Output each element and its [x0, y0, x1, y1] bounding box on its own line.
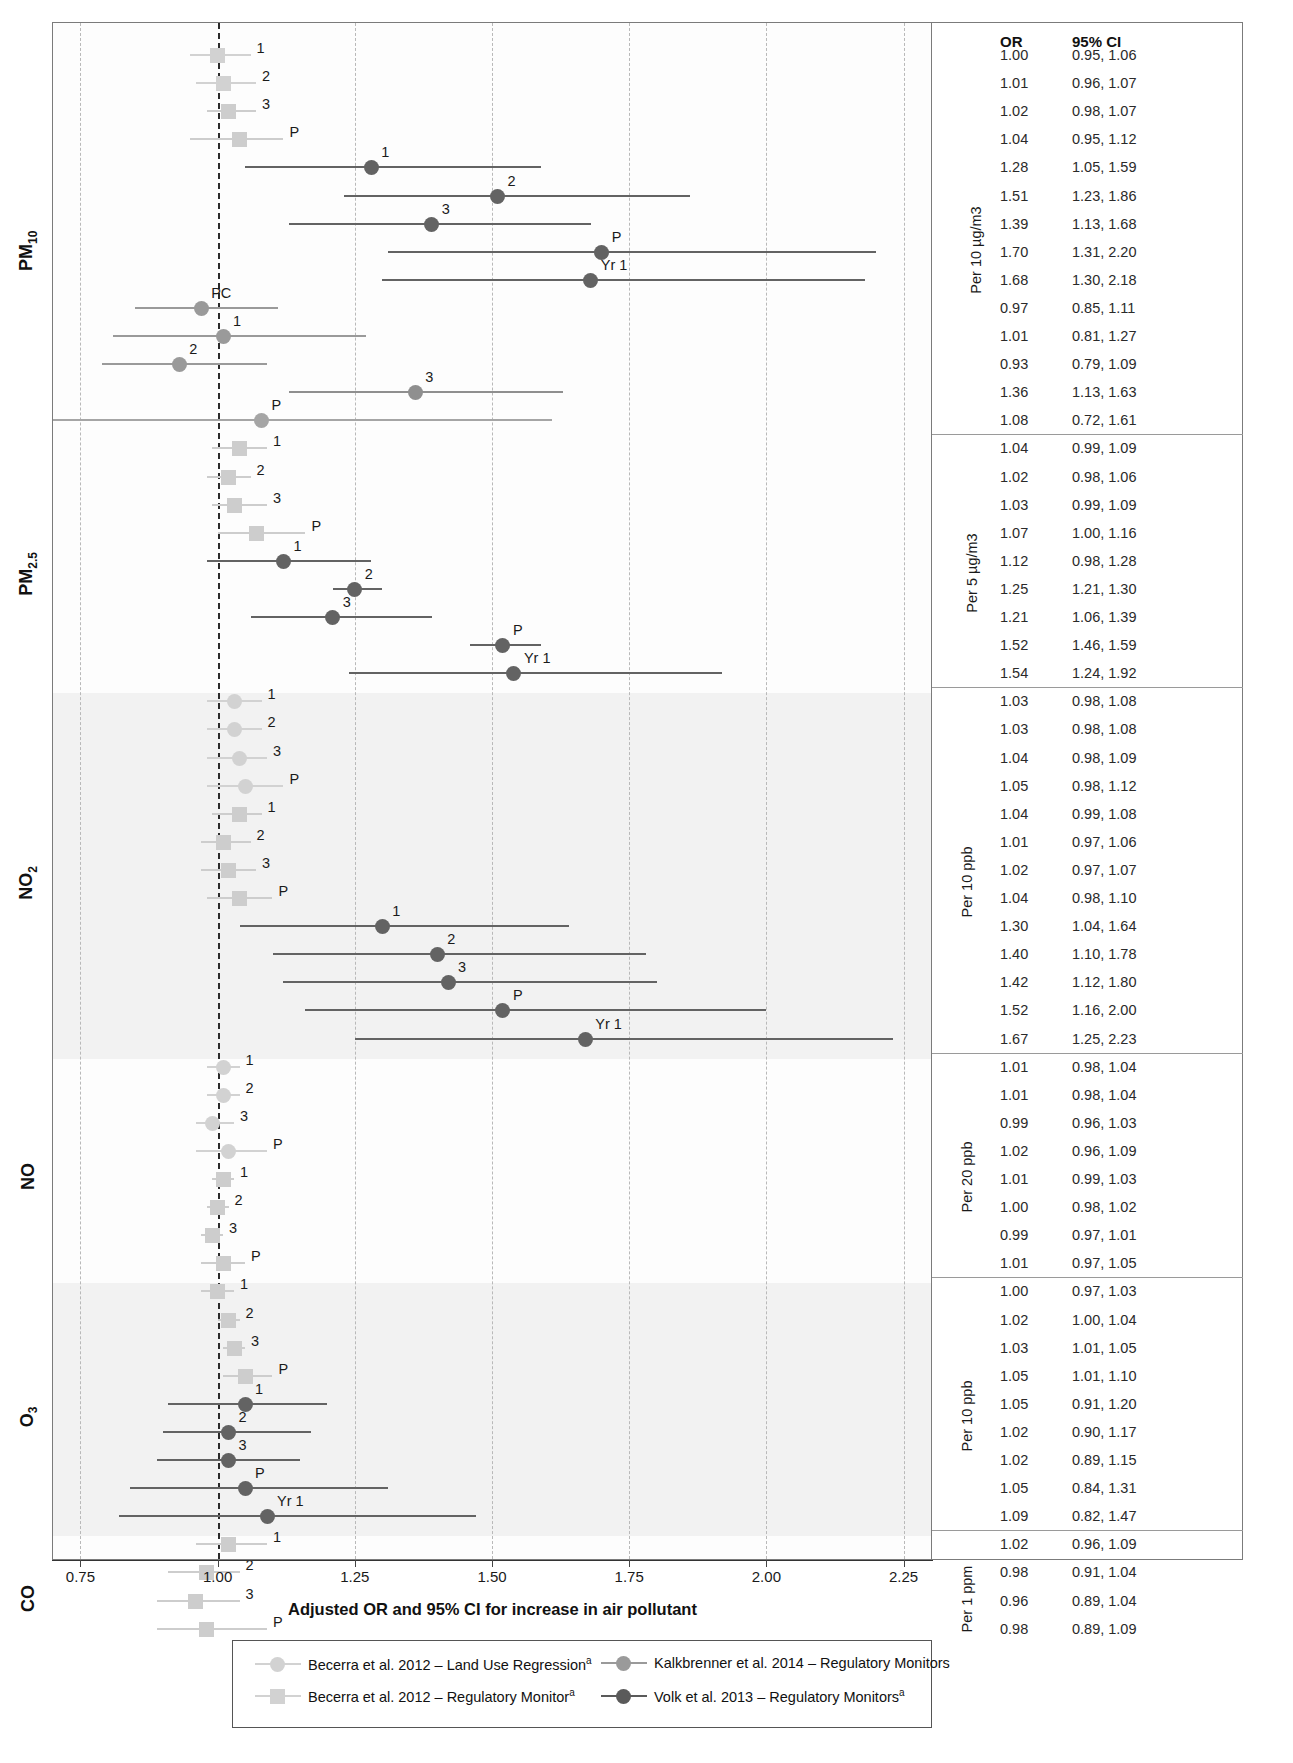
table-cell-ci: 0.97, 1.01 [1072, 1227, 1202, 1243]
table-cell-or: 0.93 [1000, 356, 1060, 372]
table-cell-or: 1.01 [1000, 1059, 1060, 1075]
table-cell-or: 1.03 [1000, 1340, 1060, 1356]
axis-tick-label: 2.25 [889, 1568, 918, 1585]
forest-row: P [53, 1137, 931, 1165]
legend-label: Becerra et al. 2012 – Land Use Regressio… [308, 1655, 592, 1673]
forest-row: 3 [53, 1334, 931, 1362]
legend-label: Kalkbrenner et al. 2014 – Regulatory Mon… [654, 1655, 950, 1671]
or-ci-table: OR 95% CI 1.000.95, 1.061.010.96, 1.071.… [932, 22, 1243, 1560]
row-label: 2 [257, 462, 265, 478]
point-estimate-marker [490, 189, 505, 204]
row-label: 1 [268, 686, 276, 702]
table-cell-ci: 0.96, 1.07 [1072, 75, 1202, 91]
confidence-interval-bar [163, 1431, 311, 1433]
row-label: 3 [262, 855, 270, 871]
table-cell-or: 0.96 [1000, 1593, 1060, 1609]
table-cell-or: 1.30 [1000, 918, 1060, 934]
point-estimate-marker [205, 1116, 220, 1131]
forest-row: 2 [53, 828, 931, 856]
table-cell-or: 1.21 [1000, 609, 1060, 625]
point-estimate-marker [205, 1228, 220, 1243]
table-cell-or: 1.04 [1000, 890, 1060, 906]
row-label: 1 [240, 1276, 248, 1292]
table-cell-or: 1.03 [1000, 721, 1060, 737]
axis-tick [766, 1560, 767, 1567]
forest-row: P [53, 1474, 931, 1502]
legend-key-icon [601, 1688, 647, 1704]
legend-key-icon [255, 1656, 301, 1672]
forest-row: 2 [53, 1193, 931, 1221]
x-axis-title: Adjusted OR and 95% CI for increase in a… [52, 1600, 933, 1619]
table-cell-or: 1.02 [1000, 1536, 1060, 1552]
table-cell-or: 1.70 [1000, 244, 1060, 260]
forest-row: P [53, 1362, 931, 1390]
table-cell-or: 1.02 [1000, 1312, 1060, 1328]
unit-label: Per 1 ppm [932, 1591, 1002, 1607]
point-estimate-marker [232, 891, 247, 906]
row-label: 1 [255, 1381, 263, 1397]
confidence-interval-bar [283, 981, 656, 983]
table-cell-or: 1.04 [1000, 806, 1060, 822]
axis-tick-label: 1.50 [477, 1568, 506, 1585]
forest-row: P [53, 125, 931, 153]
table-cell-ci: 0.99, 1.09 [1072, 440, 1202, 456]
row-label: 1 [240, 1164, 248, 1180]
table-cell-or: 1.12 [1000, 553, 1060, 569]
forest-row: 2 [53, 1306, 931, 1334]
forest-row: 1 [53, 1277, 931, 1305]
table-cell-ci: 0.98, 1.07 [1072, 103, 1202, 119]
point-estimate-marker [232, 751, 247, 766]
row-label: P [513, 622, 523, 638]
table-cell-ci: 0.98, 1.04 [1072, 1087, 1202, 1103]
row-label: P [273, 1136, 283, 1152]
point-estimate-marker [408, 385, 423, 400]
table-cell-or: 1.68 [1000, 272, 1060, 288]
point-estimate-marker [227, 722, 242, 737]
table-cell-ci: 1.13, 1.68 [1072, 216, 1202, 232]
point-estimate-marker [216, 835, 231, 850]
legend-label: Becerra et al. 2012 – Regulatory Monitor… [308, 1687, 575, 1705]
table-cell-or: 1.07 [1000, 525, 1060, 541]
row-label: 1 [246, 1052, 254, 1068]
table-cell-ci: 1.21, 1.30 [1072, 581, 1202, 597]
row-label: 3 [273, 743, 281, 759]
forest-row: 3 [53, 603, 931, 631]
forest-row: Yr 1 [53, 1502, 931, 1530]
forest-row: P [53, 996, 931, 1024]
forest-row: 3 [53, 1446, 931, 1474]
pollutant-label: CO [6, 1588, 50, 1609]
row-label: P [612, 229, 622, 245]
forest-row: 1 [53, 322, 931, 350]
forest-row: 2 [53, 182, 931, 210]
pollutant-label: O3 [6, 1405, 50, 1429]
row-label: 3 [458, 959, 466, 975]
point-estimate-marker [232, 807, 247, 822]
x-axis: 0.751.001.251.501.752.002.25 [52, 1560, 933, 1590]
legend-key-icon [255, 1688, 301, 1704]
table-cell-ci: 1.04, 1.64 [1072, 918, 1202, 934]
forest-row: 1 [53, 1053, 931, 1081]
row-label: P [513, 987, 523, 1003]
table-cell-ci: 0.91, 1.04 [1072, 1564, 1202, 1580]
table-cell-ci: 0.99, 1.09 [1072, 497, 1202, 513]
row-label: P [289, 124, 299, 140]
table-cell-or: 1.52 [1000, 637, 1060, 653]
table-cell-or: 1.67 [1000, 1031, 1060, 1047]
table-cell-ci: 0.90, 1.17 [1072, 1424, 1202, 1440]
table-cell-or: 1.05 [1000, 1396, 1060, 1412]
pollutant-label: PM2.5 [6, 562, 50, 586]
table-cell-ci: 0.82, 1.47 [1072, 1508, 1202, 1524]
table-cell-ci: 1.00, 1.04 [1072, 1312, 1202, 1328]
confidence-interval-bar [289, 223, 591, 225]
row-label: 1 [268, 799, 276, 815]
table-cell-or: 1.05 [1000, 1480, 1060, 1496]
row-label: 1 [273, 433, 281, 449]
table-cell-ci: 0.99, 1.03 [1072, 1171, 1202, 1187]
table-cell-ci: 0.81, 1.27 [1072, 328, 1202, 344]
forest-row: 3 [53, 97, 931, 125]
legend-key-icon [601, 1655, 647, 1671]
point-estimate-marker [249, 526, 264, 541]
point-estimate-marker [221, 863, 236, 878]
confidence-interval-bar [273, 953, 646, 955]
table-cell-or: 1.08 [1000, 412, 1060, 428]
